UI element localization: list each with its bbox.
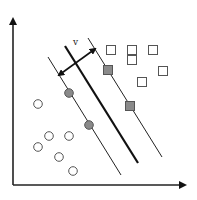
square-point [159,67,168,76]
circle-support-vector [85,121,94,130]
circle-point [55,153,64,162]
circle-point [45,132,54,141]
square-support-vector [104,66,113,75]
square-point [128,56,137,65]
svm-diagram: v [0,0,197,200]
circle-point [65,132,74,141]
margin-label: v [72,37,79,47]
square-point [128,46,137,55]
circle-point [34,100,43,109]
square-point [107,46,116,55]
data-points [34,46,168,176]
margin-arrow: v [59,37,95,75]
separating-lines [48,38,162,175]
margin-width-arrow [59,49,95,75]
circle-point [69,167,78,176]
circle-point [34,143,43,152]
square-point [138,78,147,87]
circle-support-vector [65,89,74,98]
square-support-vector [126,102,135,111]
square-point [149,46,158,55]
